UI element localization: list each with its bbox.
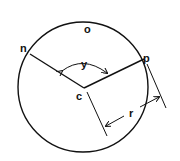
dimension-line-r-left bbox=[106, 116, 124, 126]
dimension-line-r-right bbox=[140, 97, 159, 107]
dimension-extension-center bbox=[87, 92, 107, 136]
radius-cp bbox=[84, 59, 144, 88]
circle-diagram: o n p c y r bbox=[0, 0, 180, 161]
label-o: o bbox=[84, 23, 91, 35]
label-y: y bbox=[81, 58, 88, 70]
label-r: r bbox=[129, 107, 134, 119]
label-c: c bbox=[76, 90, 82, 102]
label-p: p bbox=[143, 52, 150, 64]
label-n: n bbox=[20, 42, 27, 54]
radius-cn bbox=[30, 54, 84, 88]
